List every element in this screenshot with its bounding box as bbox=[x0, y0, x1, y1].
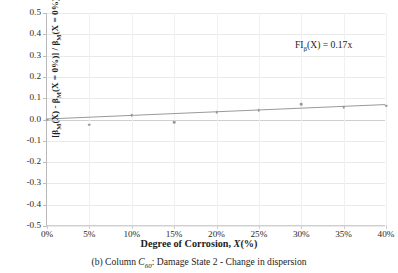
data-point bbox=[88, 124, 91, 127]
figure-panel: 0.5 0.4 0.3 0.2 0.1 0.0 -0.1 -0.2 -0.3 -… bbox=[0, 0, 398, 273]
x-axis-title: Degree of Corrosion, X(%) bbox=[0, 238, 398, 249]
y-axis-tick-label: 0.3 bbox=[30, 51, 41, 60]
data-point bbox=[258, 109, 261, 112]
y-title-sub2: M bbox=[55, 92, 62, 98]
y-axis-tick-label: -0.4 bbox=[26, 200, 41, 209]
y-title-end: (X = 0%) bbox=[50, 0, 60, 34]
y-title-pre: [β bbox=[50, 130, 60, 138]
chart-plot-area: 0.5 0.4 0.3 0.2 0.1 0.0 -0.1 -0.2 -0.3 -… bbox=[46, 13, 385, 226]
caption-label: (b) Column bbox=[91, 256, 138, 267]
y-title-sub1: M bbox=[55, 124, 62, 130]
y-axis-tick-label: -0.1 bbox=[26, 136, 41, 145]
y-axis-tick-label: -0.3 bbox=[26, 179, 41, 188]
data-point bbox=[385, 104, 388, 107]
y-axis-tick-label: 0.1 bbox=[30, 94, 41, 103]
equation-prefix: FI bbox=[295, 39, 304, 50]
data-point bbox=[342, 106, 345, 109]
y-axis-tick-label: 0.2 bbox=[30, 72, 41, 81]
caption-symbol-subscript: 60 bbox=[145, 262, 152, 270]
y-axis-tick-label: -0.5 bbox=[26, 221, 41, 230]
y-axis-tick-label: 0.5 bbox=[30, 8, 41, 17]
equation-body: (X) = 0.17x bbox=[307, 39, 352, 50]
y-axis-tick-label: -0.2 bbox=[26, 157, 41, 166]
caption-text: : Damage State 2 - Change in dispersion bbox=[152, 256, 307, 267]
data-point bbox=[130, 114, 133, 117]
data-point bbox=[215, 111, 218, 114]
figure-caption: (b) Column C60: Damage State 2 - Change … bbox=[0, 256, 398, 270]
x-title-main: Degree of Corrosion, bbox=[141, 238, 234, 249]
y-title-mid1: (X) - β bbox=[50, 98, 60, 123]
y-axis-title: [βM(X) - βM(X = 0%)] / βM(X = 0%) bbox=[50, 0, 64, 164]
y-title-mid2: (X = 0%)] / β bbox=[50, 41, 60, 92]
data-point bbox=[173, 121, 176, 124]
y-axis-tick-label: 0.0 bbox=[30, 115, 41, 124]
data-point bbox=[300, 103, 303, 106]
trendline-equation: FIβ(X) = 0.17x bbox=[295, 39, 352, 55]
y-title-sub3: M bbox=[55, 34, 62, 40]
data-point bbox=[46, 118, 49, 121]
y-axis-tick-label: 0.4 bbox=[30, 30, 41, 39]
x-title-tail: (%) bbox=[240, 238, 257, 249]
vgridline bbox=[386, 13, 387, 225]
